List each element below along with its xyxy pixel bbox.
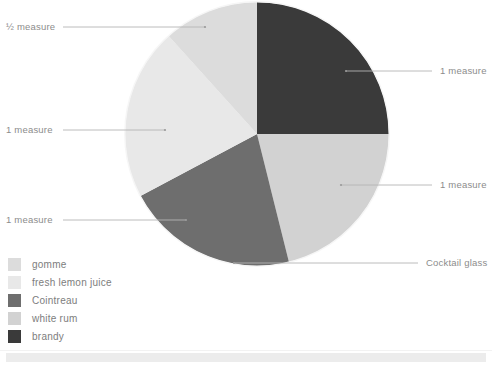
legend-label-gomme: gomme	[32, 259, 67, 270]
leader-dot-brandy	[345, 70, 347, 72]
chart-canvas: ½ measure 1 measure 1 measure 1 measure …	[0, 0, 492, 365]
legend-item-fresh-lemon-juice[interactable]: fresh lemon juice	[8, 273, 178, 291]
callout-label-fresh-lemon-juice: 1 measure	[6, 124, 53, 136]
callout-label-brandy: 1 measure	[440, 65, 487, 77]
legend-label-brandy: brandy	[32, 331, 64, 342]
legend: gomme fresh lemon juice Cointreau white …	[8, 255, 178, 345]
legend-item-cointreau[interactable]: Cointreau	[8, 291, 178, 309]
leader-dot-white-rum	[340, 184, 342, 186]
pie-slice-brandy[interactable]	[257, 2, 389, 134]
leader-dot-fresh-lemon-juice	[164, 129, 166, 131]
callout-label-white-rum: 1 measure	[440, 179, 487, 191]
legend-item-white-rum[interactable]: white rum	[8, 309, 178, 327]
legend-item-brandy[interactable]: brandy	[8, 327, 178, 345]
leader-dot-cocktail-glass	[233, 262, 235, 264]
legend-swatch-cointreau	[8, 294, 21, 307]
callout-label-cocktail-glass: Cocktail glass	[426, 257, 487, 269]
footer-divider	[0, 350, 492, 351]
leader-dot-gomme	[204, 26, 206, 28]
legend-label-cointreau: Cointreau	[32, 295, 78, 306]
legend-swatch-fresh-lemon-juice	[8, 276, 21, 289]
legend-swatch-brandy	[8, 330, 21, 343]
footer-band	[6, 353, 486, 362]
callout-label-gomme: ½ measure	[6, 21, 55, 33]
legend-label-white-rum: white rum	[32, 313, 78, 324]
legend-swatch-white-rum	[8, 312, 21, 325]
legend-item-gomme[interactable]: gomme	[8, 255, 178, 273]
leader-dot-cointreau	[185, 219, 187, 221]
legend-swatch-gomme	[8, 258, 21, 271]
callout-label-cointreau: 1 measure	[6, 214, 53, 226]
legend-label-fresh-lemon-juice: fresh lemon juice	[32, 277, 112, 288]
